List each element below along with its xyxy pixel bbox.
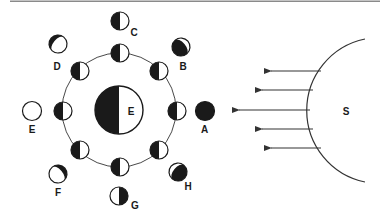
sun: S	[307, 39, 365, 182]
earth-label: E	[128, 106, 135, 117]
phase-label-d: D	[53, 61, 60, 72]
phase-view-c	[111, 12, 129, 30]
phase-label-g: G	[131, 200, 139, 211]
phase-label-e: E	[29, 124, 36, 135]
orbit-moon-top	[111, 44, 129, 62]
orbit-moon-right	[168, 102, 186, 120]
orbit-moon-lower-left	[71, 141, 89, 159]
moon-phase-diagram: E A B	[0, 0, 383, 219]
phase-view-f	[45, 161, 70, 186]
phase-label-b: B	[179, 61, 186, 72]
phase-view-b	[168, 34, 193, 59]
orbit-moon-bottom	[111, 158, 129, 176]
phase-label-f: F	[55, 187, 61, 198]
phase-view-e: E	[23, 102, 42, 136]
sun-edge	[307, 39, 365, 182]
light-rays	[239, 71, 321, 148]
orbit-moon-left	[54, 102, 72, 120]
phase-label-c: C	[130, 27, 137, 38]
earth: E	[95, 86, 143, 134]
phase-label-a: A	[201, 124, 208, 135]
orbit-moon-lower-right	[150, 141, 168, 159]
phase-label-h: H	[184, 181, 191, 192]
sun-label: S	[343, 106, 350, 117]
orbit-moon-upper-right	[150, 62, 168, 80]
phase-view-d	[45, 31, 70, 56]
orbit-moon-upper-left	[71, 62, 89, 80]
phase-view-g	[110, 187, 128, 205]
phase-view-a: A	[196, 102, 215, 136]
